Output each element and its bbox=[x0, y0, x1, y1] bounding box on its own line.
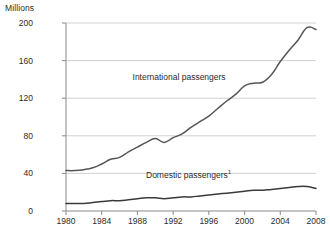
series-line-domestic bbox=[66, 186, 316, 203]
axis-ticks bbox=[62, 23, 316, 215]
series-label-international: International passengers bbox=[133, 72, 226, 82]
series-label-domestic: Domestic passengers1 bbox=[146, 169, 231, 180]
x-axis-tick-label: 1984 bbox=[92, 216, 111, 226]
x-axis-tick-label: 1980 bbox=[57, 216, 76, 226]
y-axis-tick-label: 120 bbox=[3, 93, 33, 103]
y-axis-tick-label: 80 bbox=[3, 131, 33, 141]
chart-container: Millions 04080120160200 1980198419881992… bbox=[0, 0, 330, 241]
axis-lines bbox=[66, 23, 316, 211]
y-axis-tick-label: 200 bbox=[3, 18, 33, 28]
x-axis-tick-label: 1996 bbox=[199, 216, 218, 226]
y-axis-tick-label: 0 bbox=[3, 206, 33, 216]
footnote-marker: 1 bbox=[228, 169, 231, 175]
x-axis-tick-label: 2000 bbox=[235, 216, 254, 226]
y-axis-tick-labels: 04080120160200 bbox=[0, 0, 33, 241]
x-axis-tick-label: 2004 bbox=[271, 216, 290, 226]
series-line-international bbox=[66, 27, 316, 171]
x-axis-tick-label: 1988 bbox=[128, 216, 147, 226]
x-axis-tick-label: 2008 bbox=[307, 216, 326, 226]
y-axis-tick-label: 40 bbox=[3, 168, 33, 178]
y-axis-tick-label: 160 bbox=[3, 56, 33, 66]
plot-area bbox=[0, 0, 330, 241]
gridlines bbox=[66, 23, 316, 173]
x-axis-tick-label: 1992 bbox=[164, 216, 183, 226]
